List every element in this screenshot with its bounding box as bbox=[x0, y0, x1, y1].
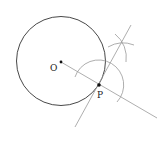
point-o bbox=[60, 61, 63, 64]
diagram-canvas: O P bbox=[0, 0, 159, 144]
geometry-figure bbox=[0, 0, 159, 144]
point-p bbox=[97, 83, 101, 87]
arc-upper-2 bbox=[115, 34, 126, 62]
label-o: O bbox=[50, 63, 57, 73]
ray-op bbox=[61, 62, 157, 118]
tangent-line bbox=[75, 25, 131, 127]
label-p: P bbox=[97, 90, 103, 100]
